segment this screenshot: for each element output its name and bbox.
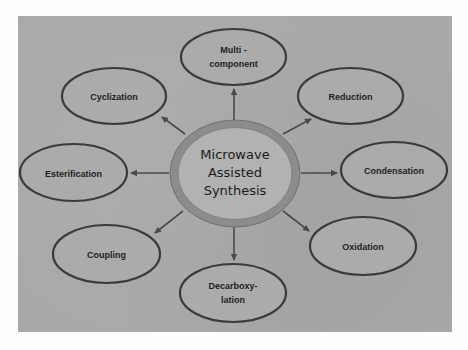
node-label-line-2: component <box>209 59 258 69</box>
node-label-line-1: Decarboxy- <box>208 281 257 291</box>
node-oxidation: Oxidation <box>310 217 416 275</box>
figure-canvas: Microwave Assisted Synthesis Multi - com… <box>0 0 468 350</box>
center-label-line-2: Assisted <box>208 165 262 180</box>
node-label: Reduction <box>329 92 373 102</box>
node-multicomponent: Multi - component <box>181 29 286 85</box>
node-coupling: Coupling <box>53 225 160 283</box>
node-cyclization: Cyclization <box>62 68 166 124</box>
arrow-to-coupling <box>155 211 183 233</box>
node-ellipse <box>181 29 286 85</box>
node-esterification: Esterification <box>20 144 127 201</box>
node-label: Cyclization <box>90 92 138 102</box>
node-label-line-2: lation <box>221 295 245 305</box>
node-label-line-1: Multi - <box>220 45 247 55</box>
microwave-synthesis-diagram: Microwave Assisted Synthesis Multi - com… <box>0 0 468 350</box>
arrow-to-cyclization <box>162 117 185 134</box>
node-decarboxylation: Decarboxy- lation <box>180 264 286 322</box>
center-label-line-3: Synthesis <box>204 183 267 198</box>
arrow-to-reduction <box>283 119 311 134</box>
node-ellipse <box>180 264 286 322</box>
node-condensation: Condensation <box>341 142 447 198</box>
arrow-to-oxidation <box>283 211 309 231</box>
node-reduction: Reduction <box>298 68 403 124</box>
node-label: Esterification <box>45 169 102 179</box>
node-label: Oxidation <box>342 242 384 252</box>
center-label-line-1: Microwave <box>200 147 269 162</box>
center-node: Microwave Assisted Synthesis <box>170 120 300 227</box>
node-label: Coupling <box>87 250 126 260</box>
node-label: Condensation <box>364 166 424 176</box>
